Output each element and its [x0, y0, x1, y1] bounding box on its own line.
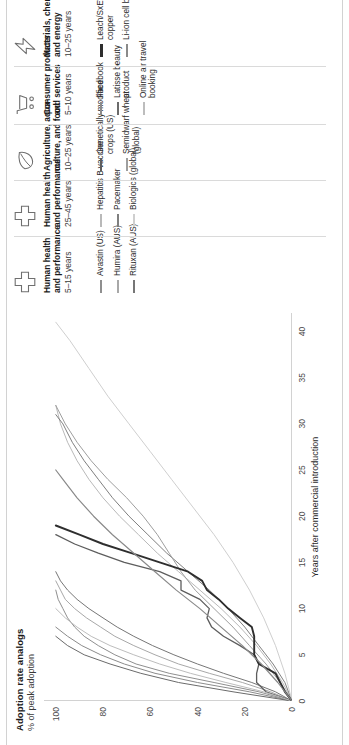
series-line [56, 322, 292, 701]
legend-item[interactable]: Leach/SxEW copper [96, 0, 115, 57]
series-line [56, 470, 292, 701]
x-tick-label: 30 [297, 412, 307, 436]
x-tick-label: 40 [297, 319, 307, 343]
x-tick-label: 0 [297, 689, 307, 713]
legend-swatch [100, 44, 103, 57]
adoption-rate-chart: Adoption rate analogs % of peak adoption… [14, 301, 336, 731]
y-tick-label: 100 [51, 707, 61, 731]
legend-group: Consumer productsand services5–10 yearsF… [14, 67, 326, 125]
x-tick-label: 20 [297, 504, 307, 528]
chart-title: Adoption rate analogs [14, 629, 25, 731]
legend-swatch [100, 102, 102, 115]
y-tick-label: 60 [145, 707, 155, 731]
x-tick-label: 10 [297, 597, 307, 621]
y-tick-label: 80 [98, 707, 108, 731]
legend-swatch [143, 102, 145, 115]
shopping-cart-icon [14, 93, 36, 115]
legend-swatch [100, 214, 102, 227]
legend-swatch [126, 158, 128, 171]
legend-group-title-line1: Human health [42, 238, 52, 293]
legend-swatch [100, 158, 102, 171]
legend-group-years: 10–25 years [63, 0, 73, 57]
legend-item[interactable]: Li-ion cell batteries [122, 0, 132, 57]
lightning-bolt-icon [14, 35, 36, 57]
legend-group-title-line2: and energy [52, 12, 62, 57]
legend-group: Materials, chemicals,and energy10–25 yea… [14, 11, 326, 67]
legend-swatch [133, 214, 135, 227]
bottom-rule [342, 0, 343, 745]
x-tick-label: 15 [297, 550, 307, 574]
chart-subtitle: % of peak adoption [26, 654, 36, 731]
legend-group-title-line2: and services [52, 64, 62, 115]
y-tick-label: 40 [193, 707, 203, 731]
x-tick-label: 25 [297, 458, 307, 482]
exhibit-canvas: Adoption rate analogs % of peak adoption… [0, 0, 349, 745]
x-tick-label: 35 [297, 366, 307, 390]
legend-swatch [126, 44, 128, 57]
legend-swatch [117, 102, 119, 115]
legend-item-label: Leach/SxEW copper [96, 0, 115, 40]
plot-area: 020406080100 0510152025303540 [44, 313, 292, 701]
legend-group-title: Materials, chemicals,and energy10–25 yea… [42, 0, 73, 57]
medical-cross-icon [14, 205, 36, 227]
legend-group: Human healthand performance25–45 yearsHe… [14, 181, 326, 237]
legend: Human healthand performance5–15 yearsAva… [14, 11, 336, 293]
leaf-icon [14, 149, 36, 171]
series-line [56, 405, 292, 701]
series-line [56, 405, 292, 701]
x-axis-title: Years after commercial introduction [310, 313, 320, 701]
legend-item-list: Leach/SxEW copperLi-ion cell batteries [96, 0, 139, 57]
series-lines [44, 313, 292, 701]
x-tick-label: 5 [297, 643, 307, 667]
y-tick-label: 0 [287, 707, 297, 731]
legend-swatch [133, 280, 135, 293]
legend-group: Agriculture, aqua-culture, and food10–25… [14, 125, 326, 181]
legend-group: Human healthand performance5–15 yearsAva… [14, 237, 326, 293]
top-rule [6, 0, 7, 745]
legend-swatch [117, 280, 119, 293]
legend-swatch [117, 214, 119, 227]
y-tick-label: 20 [240, 707, 250, 731]
medical-cross-icon [14, 271, 36, 293]
legend-item-label: Li-ion cell batteries [122, 0, 132, 40]
legend-swatch [100, 280, 102, 293]
legend-group-title-line1: Materials, chemicals, [42, 0, 52, 57]
